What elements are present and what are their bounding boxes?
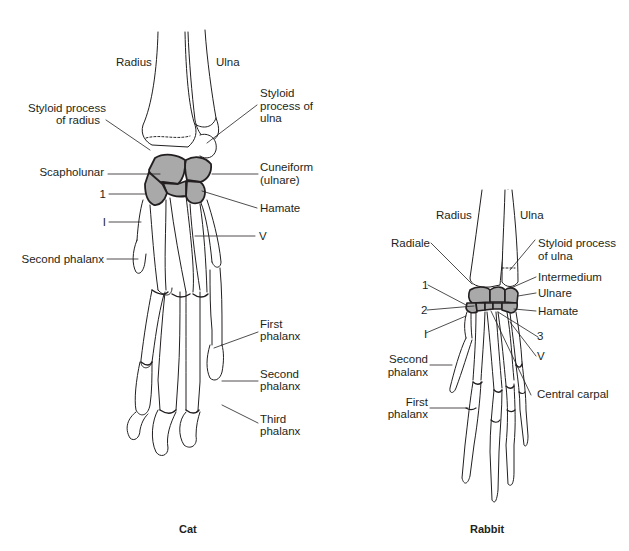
cat-label-second-phalanx-left: Second phalanx bbox=[10, 253, 104, 266]
anatomy-figure: Radius Ulna Styloid process of radius St… bbox=[0, 0, 629, 551]
cat-label-scapholunar: Scapholunar bbox=[30, 166, 104, 179]
cat-radius-bone bbox=[142, 32, 196, 147]
rabbit-label-second-phalanx-line2: phalanx bbox=[386, 366, 428, 379]
rabbit-caption: Rabbit bbox=[470, 523, 504, 535]
cat-label-styloid-ulna-line3: ulna bbox=[260, 112, 282, 125]
rabbit-intermedium bbox=[490, 287, 505, 302]
rabbit-skeleton bbox=[426, 190, 538, 502]
cat-label-hamate: Hamate bbox=[260, 202, 300, 215]
cat-label-third-phalanx-line2: phalanx bbox=[260, 425, 300, 438]
rabbit-label-styloid-ulna-line1: Styloid process bbox=[538, 237, 616, 250]
rabbit-label-carpal-1: 1 bbox=[422, 279, 428, 292]
rabbit-label-second-phalanx-line1: Second bbox=[386, 353, 428, 366]
rabbit-label-central-carpal: Central carpal bbox=[537, 388, 609, 401]
cat-caption: Cat bbox=[179, 523, 197, 535]
rabbit-radiale bbox=[469, 287, 490, 303]
rabbit-label-digit-v: V bbox=[537, 350, 545, 363]
rabbit-label-styloid-ulna-line2: of ulna bbox=[538, 250, 573, 263]
rabbit-carpal-2 bbox=[476, 303, 485, 311]
rabbit-label-radius: Radius bbox=[436, 209, 472, 222]
rabbit-label-ulna: Ulna bbox=[520, 209, 544, 222]
rabbit-label-first-phalanx-line2: phalanx bbox=[386, 408, 428, 421]
rabbit-label-ulnare: Ulnare bbox=[538, 287, 572, 300]
rabbit-central-carpal bbox=[485, 303, 493, 310]
cat-hamate bbox=[186, 181, 205, 203]
rabbit-ulna-bone bbox=[502, 190, 518, 287]
cat-cuneiform bbox=[185, 157, 211, 182]
rabbit-hamate bbox=[502, 303, 517, 313]
rabbit-label-carpal-2: 2 bbox=[421, 304, 427, 317]
cat-label-digit-v: V bbox=[259, 230, 267, 243]
cat-label-cuneiform-line1: Cuneiform bbox=[260, 161, 313, 174]
rabbit-label-radiale: Radiale bbox=[391, 237, 430, 250]
rabbit-carpal-1 bbox=[466, 303, 477, 313]
rabbit-label-hamate: Hamate bbox=[538, 305, 578, 318]
cat-label-second-phalanx-line2: phalanx bbox=[260, 380, 300, 393]
cat-label-styloid-ulna-line1: Styloid bbox=[260, 87, 295, 100]
cat-label-styloid-radius-line2: of radius bbox=[28, 114, 100, 127]
skeleton-drawing bbox=[0, 0, 629, 551]
cat-label-first-phalanx-line2: phalanx bbox=[260, 330, 300, 343]
rabbit-label-intermedium: Intermedium bbox=[538, 271, 602, 284]
rabbit-carpal-3 bbox=[493, 303, 502, 309]
cat-label-radius: Radius bbox=[116, 56, 152, 69]
cat-skeleton bbox=[106, 30, 258, 455]
cat-label-digit-i: I bbox=[90, 216, 106, 229]
cat-label-carpal-1: 1 bbox=[90, 188, 106, 201]
rabbit-label-digit-i: I bbox=[424, 328, 427, 341]
rabbit-label-carpal-3: 3 bbox=[537, 330, 543, 343]
cat-label-ulna: Ulna bbox=[216, 56, 240, 69]
rabbit-ulnare bbox=[505, 288, 518, 303]
cat-label-cuneiform-line2: (ulnare) bbox=[260, 174, 300, 187]
